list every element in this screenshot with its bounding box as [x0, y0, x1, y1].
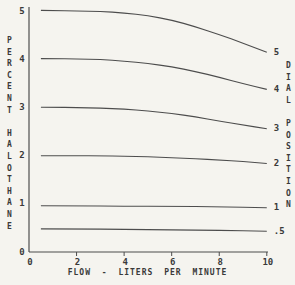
curve-end-label: 5	[274, 47, 279, 57]
curve-dial-4	[41, 59, 267, 90]
x-tick-label: 0	[27, 257, 32, 267]
x-tick-label: 8	[218, 257, 223, 267]
y-tick-label: 0	[19, 247, 24, 257]
curve-end-label: 2	[274, 158, 279, 168]
right-axis-title: DIAL POSITION	[284, 61, 292, 212]
y-tick-label: 3	[19, 102, 24, 112]
y-tick-label: 4	[19, 54, 25, 64]
chart-canvas: 024681001234554321.5	[0, 0, 295, 285]
curve-dial-3	[41, 107, 267, 129]
x-tick-label: 10	[262, 257, 273, 267]
halothane-flow-chart: 024681001234554321.5 PERCENT HALOTHANE D…	[0, 0, 295, 285]
x-tick-label: 4	[122, 257, 128, 267]
curve-dial-1	[41, 206, 267, 208]
curve-dial-5	[41, 10, 267, 52]
y-axis-title: PERCENT HALOTHANE	[5, 36, 13, 233]
x-axis-title: FLOW - LITERS PER MINUTE	[0, 268, 295, 277]
curve-end-label: 1	[274, 202, 279, 212]
x-tick-label: 2	[75, 257, 80, 267]
curve-dial-2	[41, 156, 267, 164]
y-tick-label: 2	[19, 150, 24, 160]
curve-end-label: 4	[274, 84, 280, 94]
curve-end-label: 3	[274, 123, 279, 133]
y-tick-label: 1	[19, 198, 24, 208]
x-tick-label: 6	[170, 257, 175, 267]
y-tick-label: 5	[19, 6, 24, 16]
curve-end-label: .5	[274, 226, 285, 236]
curve-dial-pt5	[41, 229, 267, 231]
